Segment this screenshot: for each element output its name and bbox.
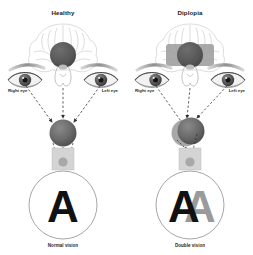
sight-lines bbox=[26, 86, 100, 122]
eye-left bbox=[211, 73, 245, 88]
target-ball bbox=[178, 118, 205, 145]
diplopia-illustration: A A bbox=[127, 0, 253, 255]
panel-healthy: Healthy bbox=[0, 0, 126, 255]
label-left-eye-diplopia: Left eye bbox=[229, 88, 245, 93]
healthy-illustration: A bbox=[0, 0, 126, 255]
eye-right bbox=[135, 73, 169, 88]
eyebrow-left bbox=[82, 65, 116, 70]
label-left-eye-healthy: Left eye bbox=[102, 88, 118, 93]
eyebrow-right bbox=[10, 65, 44, 70]
eye-left bbox=[84, 73, 118, 88]
label-double-vision: Double vision bbox=[127, 243, 253, 248]
eye-right bbox=[8, 73, 42, 88]
vision-letter: A bbox=[47, 182, 79, 231]
panel-diplopia: Diplopia bbox=[127, 0, 253, 255]
visual-cortex-circle bbox=[177, 42, 203, 68]
eyebrow-right bbox=[137, 65, 171, 70]
eyebrow-left bbox=[209, 65, 243, 70]
vision-letter: A bbox=[168, 182, 200, 231]
label-right-eye-diplopia: Right eye bbox=[135, 88, 154, 93]
diplopia-comparison-figure: Healthy bbox=[0, 0, 253, 255]
label-right-eye-healthy: Right eye bbox=[8, 88, 27, 93]
visual-cortex-circle bbox=[50, 42, 76, 68]
target-ball bbox=[50, 120, 77, 147]
label-normal-vision: Normal vision bbox=[0, 243, 126, 248]
